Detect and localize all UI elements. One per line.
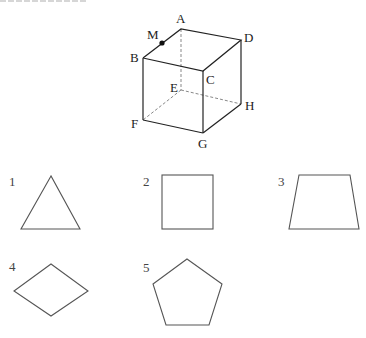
label-G: G bbox=[198, 136, 207, 151]
label-M: M bbox=[147, 27, 159, 42]
rhombus-shape bbox=[14, 264, 88, 316]
pentagon-shape bbox=[153, 259, 222, 325]
label-D: D bbox=[244, 30, 253, 45]
point-m-dot bbox=[159, 40, 164, 45]
option-4: 4 bbox=[9, 259, 88, 316]
trapezoid-shape bbox=[289, 175, 359, 229]
label-H: H bbox=[245, 98, 254, 113]
edge-EH-hidden bbox=[181, 90, 241, 104]
label-F: F bbox=[131, 116, 138, 131]
option-number: 5 bbox=[143, 260, 150, 275]
option-2: 2 bbox=[143, 174, 213, 229]
option-number: 4 bbox=[9, 259, 16, 274]
option-3: 3 bbox=[278, 174, 359, 229]
triangle-shape bbox=[21, 176, 80, 229]
square-shape bbox=[162, 175, 213, 229]
label-E: E bbox=[170, 80, 178, 95]
option-number: 1 bbox=[9, 174, 16, 189]
edge-FG bbox=[143, 120, 203, 133]
figure-canvas: A B C D E F G H M 1 2 3 4 5 bbox=[0, 0, 366, 338]
option-1: 1 bbox=[9, 174, 80, 229]
label-A: A bbox=[176, 11, 186, 26]
option-5: 5 bbox=[143, 259, 222, 325]
label-C: C bbox=[206, 72, 215, 87]
option-number: 3 bbox=[278, 174, 285, 189]
label-B: B bbox=[130, 50, 139, 65]
option-number: 2 bbox=[143, 174, 150, 189]
edge-GH bbox=[203, 104, 241, 133]
cube-diagram: A B C D E F G H M bbox=[130, 11, 254, 151]
